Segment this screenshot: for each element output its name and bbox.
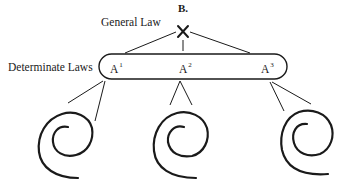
determinate-to-instance-connectors — [68, 81, 311, 121]
general-law-label: General Law — [101, 16, 161, 28]
diagram-lines — [0, 0, 345, 188]
section-label: B. — [178, 2, 188, 14]
determinate-law-node-1: A1 — [110, 61, 123, 75]
determinate-laws-container — [99, 54, 287, 79]
determinate-law-node-2: A2 — [179, 61, 192, 75]
spiral-icon-1 — [39, 113, 93, 178]
determinate-laws-label: Determinate Laws — [8, 61, 93, 73]
spiral-icon-3 — [281, 111, 332, 175]
determinate-law-node-3: A3 — [261, 61, 274, 75]
spiral-icon-2 — [154, 112, 208, 178]
general-law-x-icon — [178, 26, 188, 37]
law-hierarchy-diagram: B. General Law Determinate Laws A1 A2 A3 — [0, 0, 345, 188]
